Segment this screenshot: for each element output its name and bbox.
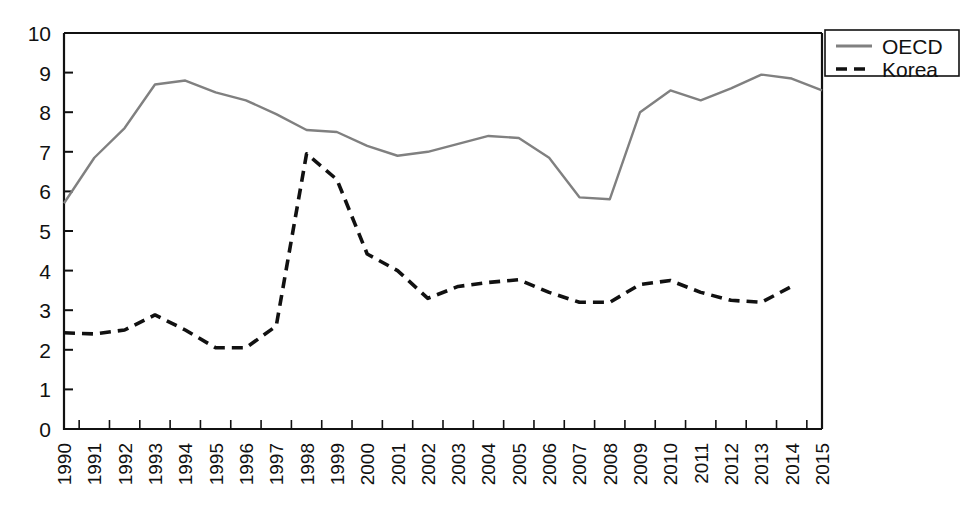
x-tick-label: 2005 <box>509 443 530 485</box>
x-tick-label: 1998 <box>297 443 318 485</box>
x-tick-label: 2015 <box>812 443 833 485</box>
x-tick-label: 2007 <box>569 443 590 485</box>
x-tick-label: 2003 <box>448 443 469 485</box>
x-tick-label: 2010 <box>660 443 681 485</box>
y-tick-label: 1 <box>39 378 51 401</box>
x-tick-label: 2009 <box>630 443 651 485</box>
plot-background <box>64 33 822 429</box>
chart-figure: 012345678910 199019911992199319941995199… <box>0 0 963 510</box>
x-axis-labels: 1990199119921993199419951996199719981999… <box>54 443 833 486</box>
y-tick-label: 0 <box>39 418 51 441</box>
x-tick-label: 1994 <box>175 443 196 486</box>
x-tick-label: 2011 <box>691 443 712 484</box>
x-tick-label: 1995 <box>206 443 227 485</box>
x-tick-label: 1999 <box>327 443 348 485</box>
y-tick-label: 4 <box>39 260 51 283</box>
x-tick-label: 2012 <box>721 443 742 485</box>
x-tick-label: 2014 <box>782 443 803 486</box>
line-chart: 012345678910 199019911992199319941995199… <box>0 0 963 510</box>
x-tick-label: 1996 <box>236 443 257 485</box>
y-tick-label: 7 <box>39 141 51 164</box>
x-tick-label: 2008 <box>600 443 621 485</box>
legend-label-korea: Korea <box>882 58 938 81</box>
x-tick-label: 1991 <box>84 443 105 485</box>
x-tick-label: 2001 <box>388 443 409 485</box>
y-tick-label: 9 <box>39 62 51 85</box>
y-tick-label: 2 <box>39 339 51 362</box>
y-tick-label: 8 <box>39 101 51 124</box>
y-tick-label: 5 <box>39 220 51 243</box>
y-tick-label: 3 <box>39 299 51 322</box>
y-tick-label: 10 <box>28 22 51 45</box>
x-tick-label: 2004 <box>478 443 499 486</box>
x-tick-label: 1992 <box>115 443 136 485</box>
x-tick-label: 1997 <box>266 443 287 485</box>
legend-label-oecd: OECD <box>882 35 943 58</box>
x-tick-label: 2006 <box>539 443 560 485</box>
y-tick-label: 6 <box>39 180 51 203</box>
x-tick-label: 1993 <box>145 443 166 485</box>
chart-legend: OECDKorea <box>825 30 959 81</box>
x-tick-label: 2002 <box>418 443 439 485</box>
plot-frame <box>64 33 822 429</box>
x-tick-label: 2013 <box>751 443 772 485</box>
x-tick-label: 2000 <box>357 443 378 485</box>
x-tick-label: 1990 <box>54 443 75 485</box>
